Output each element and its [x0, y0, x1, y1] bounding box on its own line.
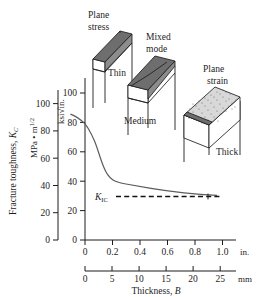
y-primary-tick-100: 100 [36, 99, 51, 109]
y-secondary-tick-60: 60 [68, 147, 78, 157]
x-mm-tick-10: 10 [134, 274, 144, 284]
kic-label-subscript: IC [101, 196, 108, 203]
annotation-medium: Medium [124, 116, 157, 126]
y-axis-primary-ticks: 0 20 40 60 80 100 [36, 99, 58, 245]
svg-text:Fracture toughness, KC: Fracture toughness, KC [8, 127, 19, 215]
annotation-thin: Thin [108, 68, 126, 78]
y-axis-caption: Fracture toughness, KC [8, 127, 19, 215]
annotation-plane-stress-line2: stress [88, 22, 109, 32]
x-inch-tick-02: 0.2 [107, 247, 119, 257]
annotation-plane-strain-line2: strain [207, 76, 228, 86]
y-secondary-tick-20: 20 [68, 206, 78, 216]
x-inch-tick-06: 0.6 [162, 247, 174, 257]
y-primary-tick-20: 20 [41, 208, 51, 218]
x-axis-caption: Thickness, B [131, 286, 180, 296]
y-secondary-tick-100: 100 [63, 88, 78, 98]
y-axis-secondary: ksi√in. 0 20 40 60 80 100 [56, 78, 85, 245]
x-inch-tick-0: 0 [83, 247, 88, 257]
x-axis-caption-symbol: B [175, 286, 181, 296]
kic-label: KIC [94, 192, 109, 203]
y-axis-primary: MPa • m1/2 0 20 40 60 80 100 [28, 90, 58, 245]
x-mm-tick-0: 0 [83, 274, 88, 284]
x-axis-mm-ticks: 0 5 10 15 20 25 mm [83, 266, 252, 284]
annotation-plane-strain-line1: Plane [203, 64, 224, 74]
x-mm-tick-15: 15 [161, 274, 171, 284]
x-inch-tick-04: 0.4 [134, 247, 146, 257]
y-axis-primary-unit: MPa • m [29, 126, 39, 158]
kic-reference-line: KIC [94, 192, 221, 203]
y-axis-secondary-ticks: 0 20 40 60 80 100 [63, 88, 85, 245]
annotation-mixed-mode: Mixed mode [146, 32, 171, 54]
x-axis-mm-unit: mm [238, 274, 252, 284]
y-axis-caption-subscript: C [12, 127, 19, 132]
x-inch-tick-10: 1.0 [217, 247, 229, 257]
y-primary-tick-60: 60 [41, 154, 51, 164]
annotation-plane-stress: Plane stress [88, 10, 109, 32]
x-axis-inch-ticks: 0 0.2 0.4 0.6 0.8 1.0 in. [83, 240, 250, 257]
y-primary-tick-0: 0 [45, 235, 50, 245]
x-mm-tick-25: 25 [215, 274, 225, 284]
figure-container: Fracture toughness, KC MPa • m1/2 0 20 4… [0, 0, 265, 297]
annotation-plane-strain: Plane strain [203, 64, 228, 86]
y-primary-tick-80: 80 [41, 126, 51, 136]
x-axis-inch-unit: in. [240, 247, 249, 257]
svg-text:MPa • m1/2: MPa • m1/2 [28, 118, 39, 158]
y-secondary-tick-80: 80 [68, 118, 78, 128]
y-secondary-tick-0: 0 [72, 235, 77, 245]
annotation-mixed-mode-line1: Mixed [146, 32, 171, 42]
annotation-thick: Thick [216, 147, 238, 157]
annotation-mixed-mode-line2: mode [146, 44, 167, 54]
fracture-toughness-chart: Fracture toughness, KC MPa • m1/2 0 20 4… [0, 0, 265, 297]
x-inch-tick-08: 0.8 [189, 247, 201, 257]
y-axis-caption-text: Fracture toughness, [8, 138, 18, 215]
annotation-plane-stress-line1: Plane [88, 10, 109, 20]
x-axis-caption-text: Thickness, [131, 286, 174, 296]
y-axis-primary-exponent: 1/2 [28, 118, 35, 126]
x-mm-tick-5: 5 [110, 274, 115, 284]
x-axis-inch: 0 0.2 0.4 0.6 0.8 1.0 in. [83, 240, 250, 257]
y-axis-secondary-unit: ksi√in. [56, 99, 66, 124]
x-axis-mm: 0 5 10 15 20 25 mm [83, 266, 252, 284]
x-mm-tick-20: 20 [188, 274, 198, 284]
y-secondary-tick-40: 40 [68, 177, 78, 187]
y-primary-tick-40: 40 [41, 181, 51, 191]
